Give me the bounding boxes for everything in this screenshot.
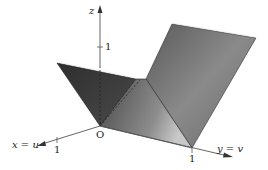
z-axis-label: z	[88, 5, 95, 16]
y-tick-label: 1	[189, 153, 195, 164]
origin-label: O	[96, 129, 104, 140]
x-axis-label: x = u	[12, 139, 39, 150]
x-axis	[42, 126, 100, 144]
y-axis-label: y = v	[216, 143, 243, 154]
z-tick-label: 1	[105, 41, 111, 52]
z-axis-arrow-icon	[98, 5, 103, 13]
x-tick-label: 1	[54, 144, 60, 155]
surface-diagram: z 1 x = u 1 y = v 1 O	[0, 0, 268, 170]
